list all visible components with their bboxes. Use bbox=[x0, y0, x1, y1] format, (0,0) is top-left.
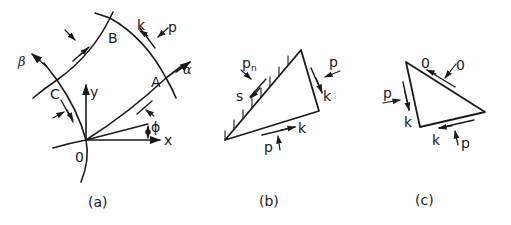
label-x-axis: x bbox=[164, 132, 172, 148]
label-right-p: p bbox=[329, 54, 338, 70]
right-pressure-arrow-icon bbox=[325, 71, 340, 77]
label-shear-k: k bbox=[137, 17, 146, 33]
bottom-pressure-arrow-icon bbox=[455, 131, 458, 145]
alpha-line-ba bbox=[95, 13, 176, 98]
panel-c: 0 0 p k k p (c) bbox=[383, 55, 485, 208]
right-shear-arrow-icon bbox=[316, 78, 322, 92]
tangent-line bbox=[86, 124, 148, 140]
label-top-pressure-zero: 0 bbox=[456, 57, 465, 73]
panel-b: p n s p k k p (b) bbox=[225, 50, 340, 209]
label-alpha: α bbox=[183, 62, 192, 77]
label-right-k: k bbox=[323, 88, 332, 104]
label-pn: p bbox=[242, 55, 251, 71]
label-y-axis: y bbox=[90, 84, 98, 100]
label-bottom-p: p bbox=[264, 139, 273, 155]
pressure-arrow-a-icon bbox=[146, 110, 154, 116]
triangle-c bbox=[406, 62, 485, 127]
bottom-pressure-arrow-icon bbox=[278, 136, 280, 150]
label-beta: β bbox=[17, 54, 26, 69]
caption-a: (a) bbox=[88, 194, 108, 210]
pressure-arrow-co-icon bbox=[53, 112, 64, 118]
label-bottom-k: k bbox=[298, 120, 307, 136]
pressure-arrow-p-icon bbox=[158, 28, 168, 37]
shear-arrow-co-icon bbox=[67, 110, 73, 120]
label-pn-subscript: n bbox=[251, 63, 257, 73]
label-bottom-k: k bbox=[432, 132, 441, 148]
beta-arrow-icon bbox=[32, 54, 46, 66]
label-point-a: A bbox=[151, 74, 161, 90]
label-point-c: C bbox=[50, 86, 60, 102]
caption-c: (c) bbox=[415, 192, 434, 208]
top-pressure-arrow-icon bbox=[445, 64, 456, 78]
label-origin: 0 bbox=[75, 149, 84, 165]
pressure-arrow-cb-icon bbox=[65, 30, 75, 40]
label-point-b: B bbox=[108, 30, 118, 46]
friction-arrow-icon bbox=[251, 88, 260, 98]
label-pressure-p: p bbox=[168, 19, 177, 35]
shear-mark-a bbox=[137, 101, 152, 114]
label-left-p: p bbox=[383, 85, 392, 101]
bottom-shear-arrow-icon bbox=[281, 127, 295, 130]
label-top-shear-zero: 0 bbox=[421, 55, 430, 71]
label-friction-s: s bbox=[236, 88, 243, 104]
label-left-k: k bbox=[404, 114, 413, 130]
slip-line-diagrams: B A C 0 y x α β ϕ k p (a) bbox=[0, 0, 511, 225]
beta-line-cb bbox=[33, 12, 113, 98]
left-shear-arrow-icon bbox=[405, 92, 409, 110]
label-bottom-p: p bbox=[461, 135, 470, 151]
label-phi: ϕ bbox=[151, 119, 160, 135]
normal-pressure-arrow-icon bbox=[241, 70, 251, 79]
panel-a: B A C 0 y x α β ϕ k p (a) bbox=[17, 12, 192, 210]
caption-b: (b) bbox=[259, 193, 279, 209]
